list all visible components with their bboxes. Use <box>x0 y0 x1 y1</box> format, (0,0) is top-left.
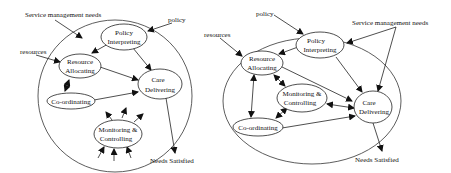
left-label-policy: policy <box>168 16 186 24</box>
left-monitor-out-1 <box>106 112 112 120</box>
left-edge-policy-resource <box>92 44 108 53</box>
right-edge-monitor-care <box>327 104 354 108</box>
right-node-care-delivering <box>354 91 392 123</box>
left-label-needs-satisfied: Needs Satisfied <box>150 157 194 165</box>
right-edge-policy-resource <box>279 47 298 54</box>
right-edge-resource-coord <box>251 75 254 117</box>
left-node-policy-interpreting <box>101 24 147 50</box>
right-care-label-2: Delivering <box>359 108 389 116</box>
left-care-label-2: Delivering <box>145 86 175 94</box>
left-resource-label-1: Resource <box>67 58 93 66</box>
left-monitor-out-3 <box>134 114 143 122</box>
left-edge-resource-care <box>100 67 138 80</box>
left-policy-label-1: Policy <box>115 29 133 37</box>
left-node-monitoring-controlling <box>94 120 142 148</box>
right-edge-monitor-coord <box>276 108 287 118</box>
left-monitor-out-2 <box>122 108 126 118</box>
left-monitor-label-2: Controlling <box>100 135 133 143</box>
right-edge-resources-in <box>220 38 242 56</box>
left-edge-resources-in <box>36 55 60 62</box>
right-resource-label-1: Resource <box>249 55 275 63</box>
left-node-care-delivering <box>138 69 182 99</box>
right-node-monitoring-controlling <box>277 84 327 112</box>
right-care-label-1: Care <box>362 99 375 107</box>
left-label-resources: resources <box>20 48 47 56</box>
right-coord-label: Co-ordinating <box>238 124 278 132</box>
left-resource-label-2: Allocating <box>65 67 95 75</box>
left-monitor-in-3 <box>127 147 131 158</box>
right-edge-service-needs-policy <box>347 27 396 43</box>
left-monitor-label-1: Monitoring & <box>98 126 138 134</box>
right-diagram: Policy Interpreting Resource Allocating … <box>204 10 428 164</box>
left-edge-policy-care <box>133 48 151 70</box>
right-edge-policy-in <box>274 15 303 34</box>
right-label-policy: policy <box>256 10 274 18</box>
left-edge-resource-coord <box>65 80 69 91</box>
left-edge-needs-satisfied <box>166 98 175 153</box>
right-label-service-needs: Service management needs <box>352 19 428 27</box>
left-edge-coord-care <box>94 92 138 100</box>
right-resource-label-2: Allocating <box>247 64 277 72</box>
left-care-label-1: Care <box>151 76 164 84</box>
left-label-service-needs: Service management needs <box>25 11 101 19</box>
right-label-needs-satisfied: Needs Satisfied <box>355 156 399 164</box>
right-monitor-label-2: Controlling <box>284 99 317 107</box>
left-monitor-in-1 <box>98 147 104 158</box>
left-diagram: Policy Interpreting Resource Allocating … <box>20 11 194 172</box>
right-edge-service-needs-care <box>378 27 396 91</box>
left-coord-label: Co-ordinating <box>51 98 91 106</box>
right-policy-label-1: Policy <box>307 37 325 45</box>
right-monitor-label-1: Monitoring & <box>282 90 322 98</box>
right-label-resources: resources <box>204 31 231 39</box>
left-edge-policy-in <box>148 23 172 31</box>
right-edge-needs-satisfied <box>373 123 382 151</box>
right-edge-policy-care <box>336 57 362 92</box>
diagram-canvas: Policy Interpreting Resource Allocating … <box>0 0 451 173</box>
right-node-policy-interpreting <box>296 32 344 58</box>
left-policy-label-2: Interpreting <box>107 38 141 46</box>
right-policy-label-2: Interpreting <box>303 46 337 54</box>
right-edge-coord-care <box>282 116 355 128</box>
right-edge-resource-monitor <box>274 75 285 86</box>
